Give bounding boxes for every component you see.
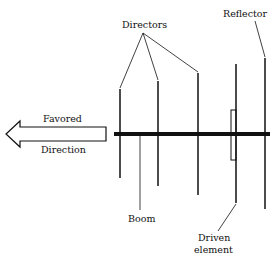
directors-label: Directors <box>122 19 167 30</box>
reflector-label: Reflector <box>223 8 268 19</box>
direction-label: Direction <box>41 144 86 155</box>
yagi-antenna-diagram: Favored Direction Directors Reflector Bo… <box>0 0 277 265</box>
reflector-leader-line <box>255 21 265 57</box>
directors-leader-lines <box>120 33 198 88</box>
driven-label-line1: Driven <box>198 232 230 243</box>
boom-label: Boom <box>128 213 155 224</box>
driven-label-line2: element <box>194 244 233 255</box>
favored-label: Favored <box>43 113 82 124</box>
driven-element-leader-line <box>218 204 236 231</box>
